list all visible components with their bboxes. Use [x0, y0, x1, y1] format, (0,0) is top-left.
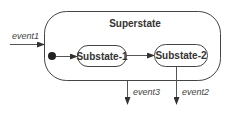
event1-label: event1 — [12, 31, 39, 41]
substate-1-label: Substate-1 — [76, 51, 128, 62]
substate-2-label: Substate-2 — [155, 50, 207, 61]
transition-event3: event3 — [128, 81, 161, 104]
substate-1: Substate-1 — [76, 46, 128, 67]
transition-event1: event1 — [10, 31, 44, 45]
event2-label: event2 — [182, 87, 209, 97]
event3-label: event3 — [133, 87, 160, 97]
substate-2: Substate-2 — [155, 45, 208, 67]
diagram-svg: Superstate event1 Substate-1 Substate-2 … — [0, 0, 229, 122]
initial-pseudostate-icon — [48, 52, 56, 60]
superstate-label: Superstate — [109, 18, 161, 29]
state-diagram: Superstate event1 Substate-1 Substate-2 … — [0, 0, 229, 122]
